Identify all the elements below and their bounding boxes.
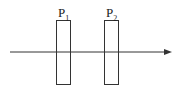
label-p2: P2	[106, 6, 117, 23]
arrow-head-icon	[164, 49, 172, 55]
label-p1: P1	[58, 6, 69, 23]
optics-diagram	[0, 0, 182, 94]
